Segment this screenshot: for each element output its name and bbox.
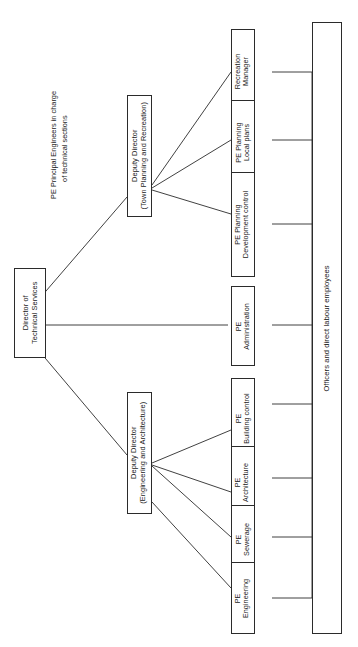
edge-dd-eng-to-building-control	[152, 430, 231, 463]
node-recreation-line-2: Manager	[243, 54, 251, 89]
node-pe-administration[interactable]: PE Administration	[231, 286, 255, 366]
node-engineering-line-2: Engineering	[243, 578, 251, 617]
node-administration-line-2: Administration	[243, 303, 251, 350]
node-dd-town-line-2: (Town Planning and Recreation)	[140, 102, 149, 209]
node-pe-engineering[interactable]: PE Engineering	[231, 562, 255, 634]
node-sewerage-line-2: Sewerage	[243, 523, 251, 556]
node-officers-line-1: Officers and direct labour employees	[323, 265, 332, 391]
node-pe-planning-development-control[interactable]: PE Planning Development control	[231, 172, 255, 277]
node-building-control-line-2: Building control	[243, 393, 251, 443]
edge-dd-eng-to-engineering	[152, 502, 231, 588]
node-director[interactable]: Director of Technical Services	[14, 268, 46, 358]
legend-note: PE Principal Engineers in charge of tech…	[44, 22, 74, 197]
node-local-plans-line-2: Local plans	[243, 122, 251, 162]
edge-dd-town-to-local-plans	[152, 140, 231, 188]
edge-dd-eng-to-sewerage	[152, 466, 231, 537]
edge-dd-eng-to-architecture	[152, 465, 231, 492]
node-architecture-line-2: Architecture	[243, 462, 251, 501]
legend-line-1: PE Principal Engineers in charge	[48, 24, 59, 199]
legend-line-2: of technical sections	[60, 24, 71, 199]
org-chart: PE Principal Engineers in charge of tech…	[0, 0, 358, 647]
edge-director-to-dd-town	[40, 197, 127, 298]
node-dd-eng-line-2: (Engineering and Architecture)	[140, 402, 149, 504]
edge-dd-town-to-dev-control	[152, 190, 231, 214]
node-deputy-director-town-planning[interactable]: Deputy Director (Town Planning and Recre…	[127, 95, 152, 217]
node-officers-and-direct-labour-employees[interactable]: Officers and direct labour employees	[312, 22, 342, 634]
node-director-line-2: Technical Services	[30, 282, 39, 345]
edge-dd-town-to-recreation	[152, 72, 231, 185]
node-dev-control-line-2: Development control	[243, 191, 251, 258]
node-deputy-director-engineering[interactable]: Deputy Director (Engineering and Archite…	[127, 392, 152, 514]
edge-director-to-dd-eng	[40, 352, 127, 455]
